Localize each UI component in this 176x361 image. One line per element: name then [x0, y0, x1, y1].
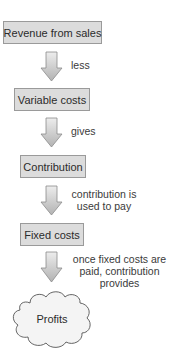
edge-label-line: contribution is	[68, 188, 140, 200]
node-variable-costs: Variable costs	[14, 88, 90, 111]
node-contribution: Contribution	[20, 155, 86, 178]
edge-label-less: less	[71, 59, 90, 71]
edge-label-text: gives	[71, 125, 96, 137]
edge-label-contribution-pays: contribution is used to pay	[68, 188, 140, 212]
edge-label-gives: gives	[71, 125, 96, 137]
down-arrow-icon	[40, 117, 64, 149]
node-label: Profits	[36, 313, 67, 325]
node-label: Fixed costs	[24, 229, 80, 241]
node-label: Contribution	[23, 161, 82, 173]
node-revenue-from-sales: Revenue from sales	[3, 21, 102, 44]
edge-label-line: once fixed costs are	[68, 253, 171, 265]
node-profits: Profits	[12, 313, 92, 325]
edge-label-text: less	[71, 59, 90, 71]
edge-label-line: used to pay	[68, 200, 140, 212]
down-arrow-icon	[40, 51, 64, 83]
node-fixed-costs: Fixed costs	[20, 223, 84, 246]
node-label: Revenue from sales	[4, 27, 102, 39]
down-arrow-icon	[40, 185, 64, 217]
node-label: Variable costs	[18, 94, 86, 106]
down-arrow-icon	[40, 251, 64, 284]
edge-label-contribution-provides: once fixed costs are paid, contribution …	[68, 253, 171, 289]
edge-label-line: paid, contribution	[68, 265, 171, 277]
